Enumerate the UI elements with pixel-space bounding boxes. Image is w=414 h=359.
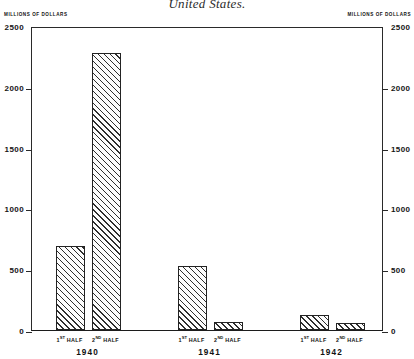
y-tick-right-500 xyxy=(382,271,388,272)
bar-1942-h2 xyxy=(336,323,365,330)
y-tick-right-1000 xyxy=(382,210,388,211)
y-tick-left-1500 xyxy=(26,150,32,151)
x-half-label-1942-h2: 2ND HALF xyxy=(327,336,372,343)
y-tick-left-500 xyxy=(26,271,32,272)
y-tick-right-2000 xyxy=(382,89,388,90)
bar-1940-h1 xyxy=(56,246,85,330)
bar-1941-h1 xyxy=(178,266,207,330)
bar-1941-h2 xyxy=(214,322,243,331)
y-tick-label-left-2000: 2000 xyxy=(5,85,24,93)
y-tick-label-right-2000: 2000 xyxy=(391,85,410,93)
bar-1940-h2 xyxy=(92,53,121,330)
y-tick-label-right-2500: 2500 xyxy=(391,24,410,32)
y-tick-label-left-2500: 2500 xyxy=(5,24,24,32)
y-tick-label-right-1500: 1500 xyxy=(391,146,410,154)
bar-chart-figure: United States. MILLIONS OF DOLLARS MILLI… xyxy=(0,0,414,359)
y-tick-label-right-500: 500 xyxy=(391,267,406,275)
half-word: HALF xyxy=(309,337,327,343)
y-tick-right-0 xyxy=(382,332,388,333)
half-word: HALF xyxy=(187,337,205,343)
half-word: HALF xyxy=(345,337,363,343)
y-tick-left-2000 xyxy=(26,89,32,90)
left-axis-caption: MILLIONS OF DOLLARS xyxy=(4,12,68,17)
figure-title: United States. xyxy=(0,0,414,9)
y-tick-left-1000 xyxy=(26,210,32,211)
y-tick-label-right-0: 0 xyxy=(391,328,396,336)
x-year-label-1940: 1940 xyxy=(48,349,128,357)
y-tick-label-left-500: 500 xyxy=(9,267,24,275)
y-tick-label-left-1500: 1500 xyxy=(5,146,24,154)
y-tick-left-0 xyxy=(26,332,32,333)
half-word: HALF xyxy=(101,337,119,343)
x-half-label-1940-h2: 2ND HALF xyxy=(83,336,128,343)
right-axis-caption: MILLIONS OF DOLLARS xyxy=(347,12,411,17)
half-word: HALF xyxy=(65,337,83,343)
plot-area: 2500250020002000150015001000100050050000 xyxy=(31,27,383,331)
x-year-label-1941: 1941 xyxy=(170,349,250,357)
y-tick-label-left-0: 0 xyxy=(19,328,24,336)
y-tick-label-left-1000: 1000 xyxy=(5,206,24,214)
y-tick-right-1500 xyxy=(382,150,388,151)
bar-1942-h1 xyxy=(300,315,329,330)
y-tick-label-right-1000: 1000 xyxy=(391,206,410,214)
x-year-label-1942: 1942 xyxy=(292,349,372,357)
x-half-label-1941-h2: 2ND HALF xyxy=(205,336,250,343)
half-word: HALF xyxy=(223,337,241,343)
